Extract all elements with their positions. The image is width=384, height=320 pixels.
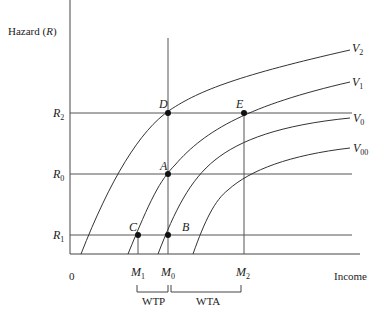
y-axis-title: Hazard (R) <box>8 25 57 38</box>
wta-bracket <box>171 285 241 292</box>
x-axis-title: Income <box>334 270 367 282</box>
label-c: C <box>129 220 138 234</box>
tick-m1: M1 <box>130 265 145 281</box>
hazard-income-diagram: D E A B C Hazard (R) R2 R0 R1 0 M1 M0 M2… <box>0 0 384 320</box>
tick-m2: M2 <box>235 265 250 281</box>
label-v2: V2 <box>352 41 363 57</box>
label-v0: V0 <box>353 111 364 127</box>
wta-label: WTA <box>196 295 220 307</box>
curve-v2 <box>81 50 350 254</box>
point-b <box>165 232 171 238</box>
tick-m0: M0 <box>160 265 175 281</box>
label-d: D <box>158 97 168 111</box>
diagram-canvas: D E A B C Hazard (R) R2 R0 R1 0 M1 M0 M2… <box>0 0 384 320</box>
label-v00: V00 <box>353 141 368 157</box>
tick-r0: R0 <box>52 167 64 183</box>
label-e: E <box>235 97 244 111</box>
origin-label: 0 <box>69 270 75 282</box>
label-b: B <box>182 220 190 234</box>
label-v1: V1 <box>352 75 363 91</box>
wtp-label: WTP <box>142 295 165 307</box>
tick-r1: R1 <box>52 228 64 244</box>
tick-r2: R2 <box>52 106 64 122</box>
wtp-bracket <box>137 285 168 292</box>
label-a: A <box>159 159 168 173</box>
curve-v00 <box>193 148 350 254</box>
